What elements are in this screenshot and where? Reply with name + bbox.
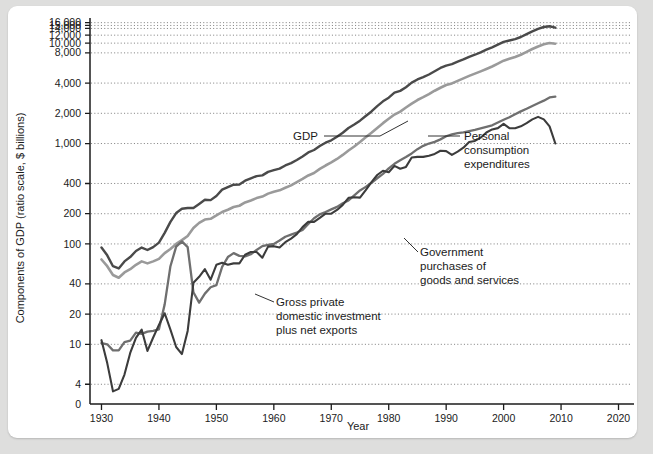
annotation-label-gross-private-domestic-investment: Gross privatedomestic investmentplus net… bbox=[276, 296, 382, 336]
annotation-label-gdp: GDP bbox=[293, 130, 318, 142]
x-tick-label: 1960 bbox=[262, 412, 286, 424]
gridlines bbox=[91, 23, 630, 385]
series-annotations: GDPPersonalconsumptionexpendituresGovern… bbox=[255, 121, 530, 336]
y-axis-title: Components of GDP (ratio scale, $ billio… bbox=[14, 113, 26, 324]
y-tick-label: 200 bbox=[63, 207, 81, 219]
y-tick-label: 4 bbox=[75, 378, 81, 390]
annotation-leader-gross-private-domestic-investment bbox=[255, 294, 274, 302]
annotation-leader-gdp bbox=[324, 121, 408, 136]
y-axis-ticks: 41020401002004001,0002,0004,0008,00010,0… bbox=[49, 16, 90, 409]
gdp-components-line-chart: 41020401002004001,0002,0004,0008,00010,0… bbox=[8, 6, 637, 438]
annotation-label-government-purchases: Governmentpurchases ofgoods and services bbox=[420, 246, 519, 286]
annotation-label-personal-consumption-expenditures: Personalconsumptionexpenditures bbox=[464, 130, 530, 170]
x-tick-label: 1940 bbox=[147, 412, 171, 424]
y-tick-label: 10 bbox=[69, 338, 81, 350]
y-tick-label: 16,000 bbox=[49, 16, 81, 28]
x-axis-title: Year bbox=[347, 420, 370, 432]
y-tick-label: 400 bbox=[63, 177, 81, 189]
x-tick-label: 2010 bbox=[549, 412, 573, 424]
axes bbox=[90, 18, 634, 404]
x-tick-label: 1950 bbox=[205, 412, 229, 424]
x-tick-label: 1980 bbox=[377, 412, 401, 424]
y-tick-label: 4,000 bbox=[55, 77, 81, 89]
y-tick-label: 1,000 bbox=[55, 137, 81, 149]
y-tick-label: 100 bbox=[63, 238, 81, 250]
y-tick-label: 2,000 bbox=[55, 107, 81, 119]
x-tick-label: 2000 bbox=[492, 412, 516, 424]
y-tick-label: 20 bbox=[69, 308, 81, 320]
y-tick-label: 40 bbox=[69, 277, 81, 289]
x-tick-label: 1970 bbox=[320, 412, 344, 424]
x-tick-label: 1990 bbox=[434, 412, 458, 424]
annotation-leader-government-purchases bbox=[404, 238, 418, 252]
series-lines bbox=[101, 26, 555, 391]
y-tick-label-zero: 0 bbox=[75, 398, 81, 410]
figure-card: 41020401002004001,0002,0004,0008,00010,0… bbox=[8, 6, 637, 438]
x-tick-label: 1930 bbox=[90, 412, 114, 424]
x-tick-label: 2020 bbox=[607, 412, 631, 424]
